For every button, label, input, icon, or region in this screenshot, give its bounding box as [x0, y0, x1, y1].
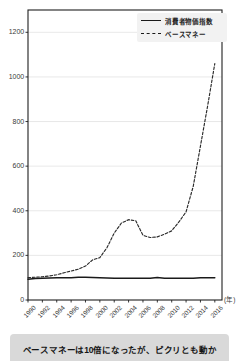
caption-bar: ベースマネーは10倍になったが、ピクリとも動か	[10, 334, 229, 361]
y-tick-label: 400	[0, 207, 24, 215]
series-line-cpi	[28, 277, 215, 279]
legend-line-sample-dashed	[141, 30, 161, 38]
chart-legend: 消費者物価指数 ベースマネー	[137, 13, 227, 42]
series-line-base-money	[28, 64, 215, 278]
legend-item-base-money: ベースマネー	[141, 28, 206, 40]
legend-label-base-money: ベースマネー	[165, 29, 206, 39]
y-tick-label: 0	[0, 296, 24, 304]
legend-item-cpi: 消費者物価指数	[141, 15, 213, 27]
y-tick-label: 200	[0, 251, 24, 259]
legend-label-cpi: 消費者物価指数	[165, 16, 213, 26]
figure-container: 020040060080010001200 199019921994199619…	[0, 0, 239, 361]
caption-text: ベースマネーは10倍になったが、ピクリとも動か	[10, 343, 229, 355]
y-tick-label: 1200	[0, 28, 24, 36]
y-tick-label: 800	[0, 118, 24, 126]
y-tick-label: 1000	[0, 73, 24, 81]
x-axis-unit-label: (年)	[224, 296, 235, 303]
y-tick-label: 600	[0, 162, 24, 170]
legend-line-sample-solid	[141, 17, 161, 25]
